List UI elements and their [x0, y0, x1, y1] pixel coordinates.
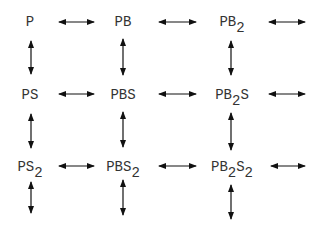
arrows-layer — [0, 0, 321, 231]
